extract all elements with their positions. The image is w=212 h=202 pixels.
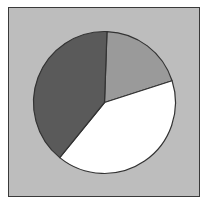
pie-chart [0, 0, 212, 202]
pie-slices [34, 31, 176, 173]
